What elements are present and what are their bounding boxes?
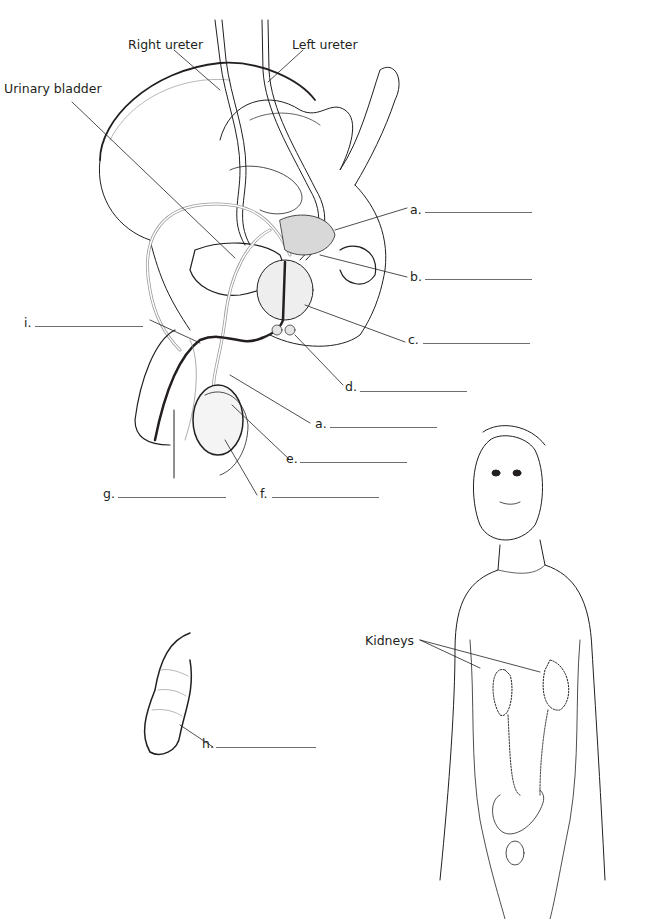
answer-blank-e[interactable] bbox=[300, 462, 407, 463]
blank-label-i: i. bbox=[24, 316, 31, 330]
label-urinary-bladder: Urinary bladder bbox=[4, 82, 102, 96]
blank-label-a2: a. bbox=[315, 417, 327, 431]
uncircumcised-penis bbox=[145, 633, 192, 754]
blank-label-e: e. bbox=[286, 452, 298, 466]
anatomy-illustration bbox=[0, 0, 645, 919]
answer-blank-a2[interactable] bbox=[330, 427, 437, 428]
blank-label-f: f. bbox=[260, 487, 267, 501]
blank-label-c: c. bbox=[408, 333, 419, 347]
kidneys-dotted bbox=[493, 660, 569, 795]
answer-blank-g[interactable] bbox=[118, 497, 226, 498]
answer-blank-i[interactable] bbox=[35, 326, 143, 327]
blank-label-d: d. bbox=[345, 380, 357, 394]
answer-blank-a[interactable] bbox=[425, 212, 532, 213]
answer-blank-f[interactable] bbox=[272, 497, 379, 498]
label-kidneys: Kidneys bbox=[365, 634, 414, 648]
bulbourethral-gland bbox=[272, 325, 282, 335]
blank-label-h: h. bbox=[202, 737, 214, 751]
label-left-ureter: Left ureter bbox=[292, 38, 358, 52]
blank-label-b: b. bbox=[410, 270, 422, 284]
human-figure bbox=[440, 426, 605, 919]
blank-label-g: g. bbox=[103, 487, 115, 501]
seminal-vesicle bbox=[280, 215, 335, 255]
answer-blank-h[interactable] bbox=[216, 747, 316, 748]
blank-label-a: a. bbox=[410, 203, 422, 217]
right-ureter bbox=[215, 20, 245, 245]
answer-blank-d[interactable] bbox=[360, 391, 467, 392]
testis bbox=[193, 385, 243, 455]
pelvis-outline bbox=[100, 63, 315, 160]
label-right-ureter: Right ureter bbox=[128, 38, 203, 52]
answer-blank-b[interactable] bbox=[425, 279, 532, 280]
answer-blank-c[interactable] bbox=[423, 343, 530, 344]
